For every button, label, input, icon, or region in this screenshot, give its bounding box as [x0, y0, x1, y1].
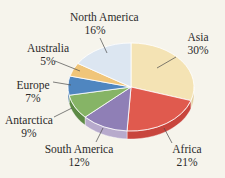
label-europe-name: Europe [16, 79, 49, 91]
label-asia-pct: 30% [183, 44, 213, 57]
pie-top-face [68, 43, 194, 131]
label-antarctica-pct: 9% [4, 127, 54, 140]
label-europe: Europe 7% [12, 79, 54, 105]
label-asia: Asia 30% [183, 31, 213, 57]
label-north-america: North America 16% [70, 11, 120, 37]
label-africa-name: Africa [172, 143, 201, 155]
label-europe-pct: 7% [12, 92, 54, 105]
label-north-america-pct: 16% [70, 24, 120, 37]
label-australia-name: Australia [27, 42, 69, 54]
callout-line-antarctica [54, 108, 72, 117]
label-north-america-name: North America [70, 11, 139, 23]
label-antarctica: Antarctica 9% [4, 114, 54, 140]
label-south-america-pct: 12% [44, 156, 114, 169]
label-antarctica-name: Antarctica [5, 114, 53, 126]
label-australia: Australia 5% [24, 42, 72, 68]
label-africa-pct: 21% [170, 156, 204, 169]
label-south-america-name: South America [45, 143, 114, 155]
label-south-america: South America 12% [44, 143, 114, 169]
label-asia-name: Asia [187, 31, 208, 43]
label-africa: Africa 21% [170, 143, 204, 169]
label-australia-pct: 5% [24, 55, 72, 68]
